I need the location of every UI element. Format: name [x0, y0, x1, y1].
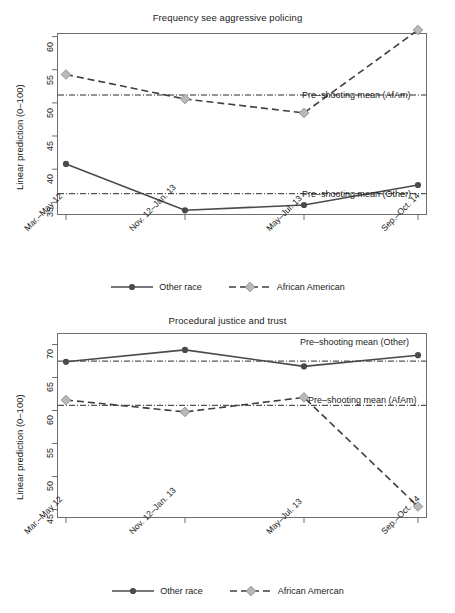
legend-item-african-american[interactable]: African American	[228, 281, 345, 293]
figure-root: Frequency see aggressive policing Linear…	[0, 0, 455, 613]
chart-plot-area: Pre–shooting mean (Other) Pre–shooting m…	[0, 310, 455, 540]
series-markers-african-amercan	[61, 393, 423, 512]
legend-item-african-amercan[interactable]: African Amercan	[229, 585, 344, 597]
series-markers-african-american	[61, 25, 423, 118]
series-line-other-race	[66, 350, 418, 367]
legend-swatch-solid-icon	[110, 281, 154, 293]
chart-panel-frequency-see-aggressive-policing: Frequency see aggressive policing Linear…	[0, 0, 455, 310]
x-tick-marks	[66, 518, 418, 524]
legend-item-other-race[interactable]: Other race	[111, 585, 203, 597]
legend-label: African American	[277, 282, 345, 292]
annotation-pre-shooting-mean-afam: Pre–shooting mean (AfAm)	[308, 395, 417, 405]
x-tick-marks	[66, 215, 418, 221]
y-tick-marks	[52, 37, 58, 203]
series-line-african-american	[66, 30, 418, 113]
chart-panel-procedural-justice-and-trust: Procedural justice and trust Linear pred…	[0, 310, 455, 613]
legend-label: African Amercan	[278, 586, 344, 596]
annotation-pre-shooting-mean-other: Pre–shooting mean (Other)	[302, 189, 411, 199]
legend-label: Other race	[160, 586, 203, 596]
plot-frame	[58, 34, 427, 215]
legend-item-other-race[interactable]: Other race	[110, 281, 202, 293]
chart-legend: Other race African American	[0, 281, 455, 293]
chart-legend: Other race African Amercan	[0, 585, 455, 597]
series-line-african-amercan	[66, 397, 418, 506]
legend-swatch-dashed-icon	[228, 281, 272, 293]
y-tick-marks	[52, 345, 58, 510]
chart-plot-area: Pre–shooting mean (AfAm) Pre–shooting me…	[0, 0, 455, 230]
legend-label: Other race	[159, 282, 202, 292]
series-line-other-race	[66, 164, 418, 210]
annotation-pre-shooting-mean-afam: Pre–shooting mean (AfAm)	[302, 90, 411, 100]
legend-swatch-dashed-icon	[229, 585, 273, 597]
legend-swatch-solid-icon	[111, 585, 155, 597]
series-markers-other-race	[63, 161, 421, 214]
annotation-pre-shooting-mean-other: Pre–shooting mean (Other)	[300, 337, 409, 347]
